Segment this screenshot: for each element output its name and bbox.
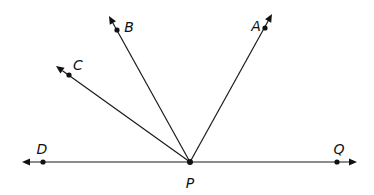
ray-pc	[63, 71, 190, 162]
arrowhead-icon	[22, 159, 30, 166]
label-a: A	[250, 18, 261, 34]
point-q	[334, 159, 339, 164]
label-c: C	[73, 57, 83, 73]
label-b: B	[124, 19, 134, 35]
point-d	[40, 159, 45, 164]
ray-pb	[113, 23, 190, 162]
label-q: Q	[333, 141, 344, 157]
label-d: D	[37, 141, 48, 157]
vertex-label-p: P	[186, 175, 195, 191]
point-b	[114, 27, 119, 32]
point-c	[66, 72, 71, 77]
ray-pa	[190, 21, 268, 162]
point-p	[187, 159, 193, 165]
arrowhead-icon	[56, 66, 65, 74]
point-a	[262, 25, 267, 30]
ray-diagram: P A B C D Q	[0, 0, 374, 195]
arrowhead-icon	[349, 159, 357, 166]
